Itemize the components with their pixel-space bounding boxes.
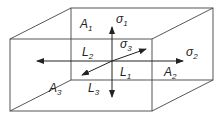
label-A2: A2	[163, 65, 177, 81]
label-A1: A1	[79, 17, 92, 33]
sigma3-arrow-front	[82, 61, 112, 75]
label-L1: L1	[120, 65, 131, 81]
label-sigma1: σ1	[116, 12, 128, 28]
label-L3: L3	[88, 81, 100, 97]
label-A3: A3	[48, 81, 62, 97]
stress-box-diagram: A1 σ1 σ3 σ2 L2 L1 A2 A3 L3	[0, 0, 221, 121]
label-sigma2: σ2	[186, 45, 198, 61]
labels: A1 σ1 σ3 σ2 L2 L1 A2 A3 L3	[48, 12, 198, 97]
label-L2: L2	[82, 45, 94, 61]
